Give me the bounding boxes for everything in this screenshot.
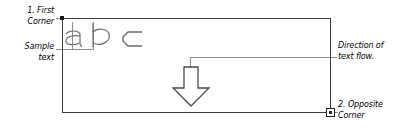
label-sample-text: Sample text (2, 42, 54, 63)
label-first-corner: 1. First Corner (2, 6, 54, 27)
frame-right-edge (330, 18, 331, 113)
corner-grip-handle-icon[interactable] (326, 108, 335, 117)
leader-direction (190, 57, 337, 58)
label-direction-of-text-flow: Direction of text flow. (338, 41, 398, 62)
text-frame-diagram: 1. First Corner Sample text Direction of… (0, 0, 398, 130)
sample-glyph-b (90, 22, 116, 50)
label-opposite-corner: 2. Opposite Corner (338, 100, 398, 121)
frame-bottom-edge (62, 112, 331, 113)
sample-glyph-a (62, 28, 88, 50)
frame-top-edge (62, 18, 331, 19)
corner-point-icon (60, 16, 64, 20)
down-arrow-icon (169, 66, 213, 108)
sample-glyph-c (119, 28, 147, 50)
